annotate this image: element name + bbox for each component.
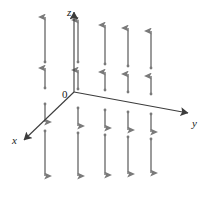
vector-field-canvas: z y x 0 [0, 0, 204, 199]
vector-base-dot [127, 91, 130, 94]
x-axis-label: x [11, 134, 17, 146]
vector-base-dot [77, 132, 80, 135]
y-axis-label: y [191, 117, 197, 129]
vector-base-dot [104, 134, 107, 137]
vector-base-dot [104, 63, 107, 66]
vector-base-dot [150, 67, 153, 70]
vector-base-dot [104, 109, 107, 112]
axis-group [24, 12, 188, 140]
vector-base-dot [150, 93, 153, 96]
vector-base-dot [150, 138, 153, 141]
vector-base-dot [44, 103, 47, 106]
vector-base-dot [44, 61, 47, 64]
origin-label: 0 [62, 88, 68, 100]
vector-base-dot [77, 107, 80, 110]
vector-base-dot [44, 130, 47, 133]
z-axis-label: z [66, 6, 72, 18]
vector-base-dot [150, 113, 153, 116]
vector-base-dot [77, 88, 80, 91]
y-axis [74, 92, 188, 113]
vector-base-dot [127, 65, 130, 68]
vector-base-dot [127, 111, 130, 114]
vector-field-figure: z y x 0 [0, 0, 204, 199]
vector-base-dot [127, 136, 130, 139]
vector-base-dot [104, 89, 107, 92]
vector-base-dot [44, 87, 47, 90]
vector-base-dot [77, 61, 80, 64]
